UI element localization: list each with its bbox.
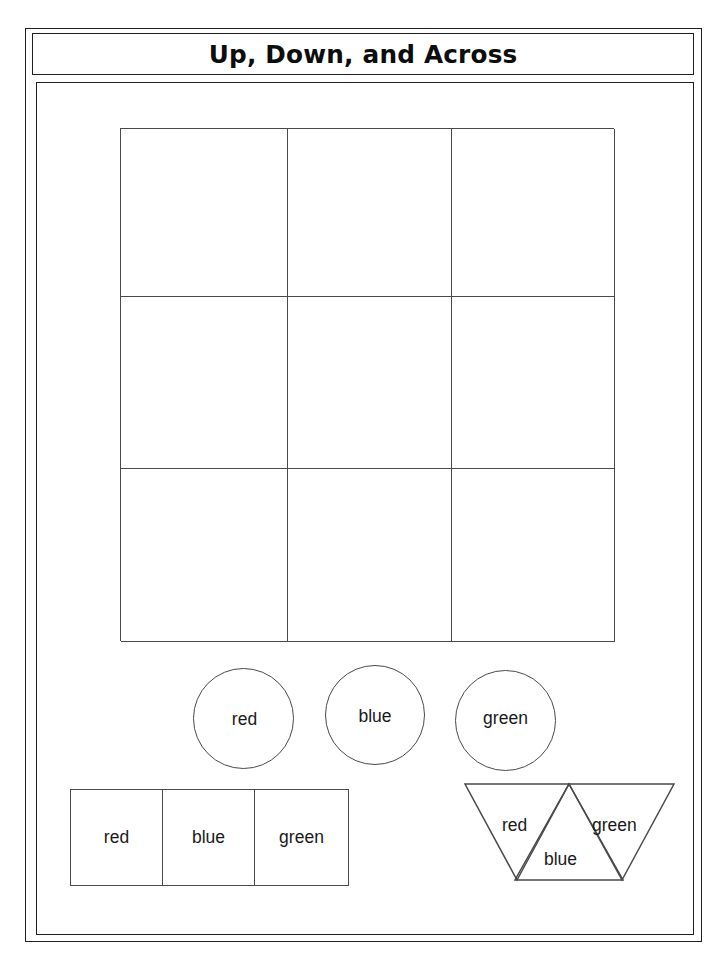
circle-label: red bbox=[232, 709, 257, 730]
worksheet-page: Up, Down, and Across red blue green red … bbox=[0, 0, 726, 958]
square-label: red bbox=[104, 827, 129, 848]
circle-shape-blue[interactable]: blue bbox=[325, 665, 425, 765]
grid-cell[interactable] bbox=[288, 297, 452, 469]
triangle-shape-group: red blue green bbox=[455, 770, 685, 895]
triangle-shapes-svg bbox=[455, 770, 685, 895]
grid-cell[interactable] bbox=[288, 469, 452, 642]
grid-cell[interactable] bbox=[452, 129, 615, 297]
triangle-label-green: green bbox=[592, 815, 637, 836]
grid-cell[interactable] bbox=[452, 469, 615, 642]
square-label: green bbox=[279, 827, 324, 848]
answer-grid bbox=[120, 128, 614, 641]
grid-cell[interactable] bbox=[121, 129, 288, 297]
square-shape-green[interactable]: green bbox=[255, 790, 348, 885]
grid-cell[interactable] bbox=[288, 129, 452, 297]
grid-cell[interactable] bbox=[121, 469, 288, 642]
page-title: Up, Down, and Across bbox=[209, 39, 518, 69]
square-label: blue bbox=[192, 827, 225, 848]
triangle-label-blue: blue bbox=[544, 849, 577, 870]
square-shape-red[interactable]: red bbox=[71, 790, 163, 885]
circle-label: blue bbox=[358, 706, 391, 727]
grid-cell[interactable] bbox=[452, 297, 615, 469]
square-shape-blue[interactable]: blue bbox=[163, 790, 255, 885]
grid-cell[interactable] bbox=[121, 297, 288, 469]
circle-shape-red[interactable]: red bbox=[193, 668, 294, 769]
circle-label: green bbox=[483, 708, 528, 729]
title-banner: Up, Down, and Across bbox=[32, 33, 694, 75]
triangle-label-red: red bbox=[502, 815, 527, 836]
circle-shape-green[interactable]: green bbox=[455, 670, 556, 771]
square-shape-row: red blue green bbox=[70, 789, 349, 886]
